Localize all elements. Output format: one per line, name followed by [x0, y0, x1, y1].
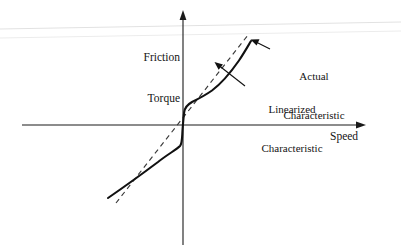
scan-edge-upper-line	[0, 22, 401, 29]
actual-characteristic-leader	[251, 39, 271, 49]
linearized-characteristic-label-line1: Linearized	[247, 103, 337, 116]
y-axis-label: Friction Torque	[128, 24, 180, 133]
actual-leader-line	[256, 42, 270, 49]
scan-artifact-group	[0, 22, 401, 38]
linearized-characteristic-label: Linearized Characteristic	[247, 77, 337, 181]
scan-edge-lower-line	[0, 31, 401, 38]
linearized-characteristic-leader	[215, 62, 246, 86]
y-axis-label-line1: Friction	[128, 51, 180, 65]
x-axis-arrowhead	[356, 122, 366, 129]
friction-torque-speed-figure: Friction Torque Speed Actual Characteris…	[0, 0, 401, 245]
actual-leader-arrowhead	[251, 39, 260, 45]
y-axis-label-line2: Torque	[128, 92, 180, 106]
linearized-leader-arrowhead	[215, 62, 224, 70]
y-axis-arrowhead	[180, 10, 187, 20]
linearized-characteristic-label-line2: Characteristic	[247, 142, 337, 155]
